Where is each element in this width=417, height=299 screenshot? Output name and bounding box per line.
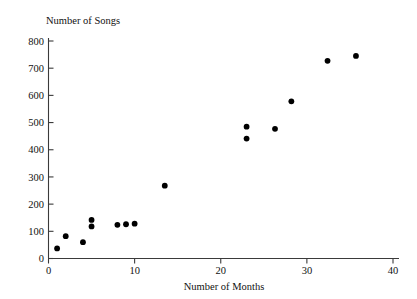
x-tick-label: 30 <box>302 265 313 276</box>
y-tick-label: 400 <box>28 144 44 155</box>
x-tick-label: 0 <box>46 265 51 276</box>
data-point <box>325 58 331 64</box>
data-point <box>132 221 138 227</box>
x-tick-label: 20 <box>216 265 227 276</box>
data-point <box>244 136 250 142</box>
y-tick-label: 200 <box>28 199 44 210</box>
y-tick-label: 600 <box>28 90 44 101</box>
data-point <box>63 233 69 239</box>
data-point <box>54 246 60 252</box>
data-point <box>80 239 86 245</box>
x-tick-label: 10 <box>129 265 140 276</box>
y-tick-label: 100 <box>28 226 44 237</box>
plot-area: Number of Songs Number of Months 0100200… <box>0 0 417 299</box>
data-point <box>89 224 95 230</box>
x-axis-title: Number of Months <box>184 281 265 292</box>
data-point <box>89 217 95 223</box>
y-tick-label: 800 <box>28 36 44 47</box>
data-points <box>54 53 359 251</box>
data-point <box>162 183 168 189</box>
data-point <box>288 98 294 104</box>
data-point <box>244 124 250 130</box>
x-axis-ticks: 010203040 <box>46 259 398 277</box>
y-tick-label: 0 <box>39 253 44 264</box>
x-tick-label: 40 <box>388 265 399 276</box>
data-point <box>123 221 129 227</box>
scatter-chart: Number of Songs Number of Months 0100200… <box>0 0 417 299</box>
y-tick-label: 500 <box>28 117 44 128</box>
data-point <box>272 126 278 132</box>
y-tick-label: 300 <box>28 172 44 183</box>
data-point <box>353 53 359 59</box>
y-axis-ticks: 0100200300400500600700800 <box>28 36 53 265</box>
data-point <box>115 222 121 228</box>
y-axis-title: Number of Songs <box>46 15 120 26</box>
y-tick-label: 700 <box>28 63 44 74</box>
